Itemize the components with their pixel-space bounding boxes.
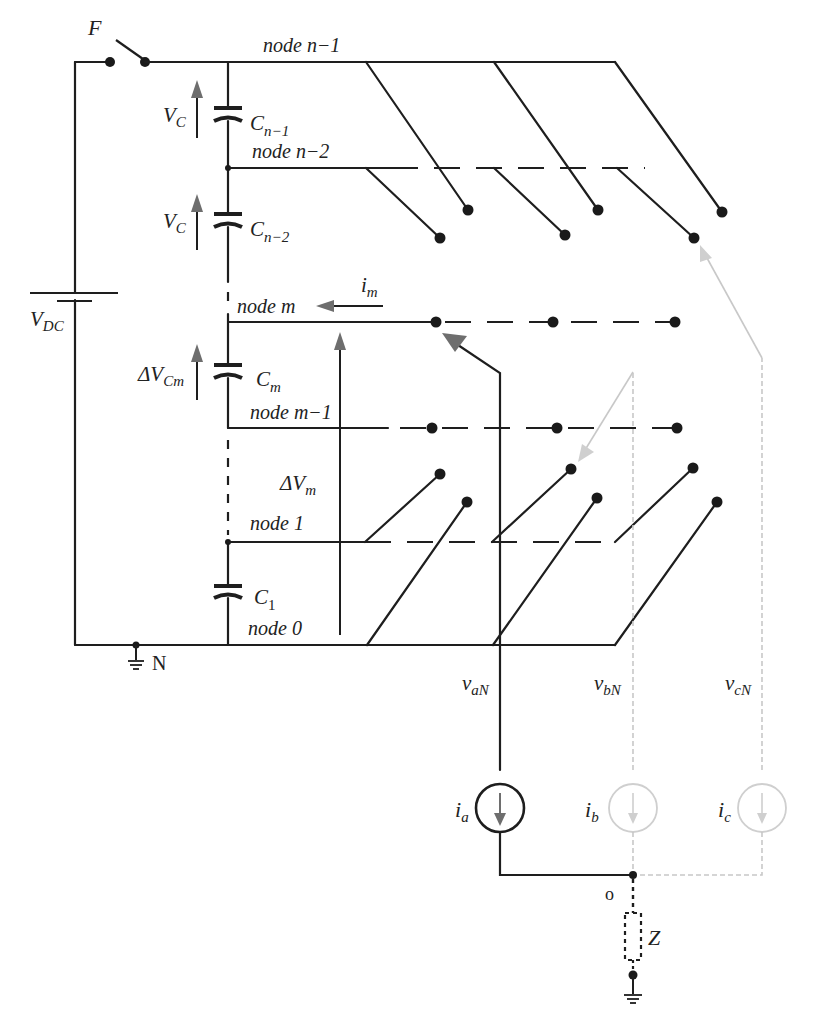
phase-current-ic-label: ic: [718, 797, 731, 825]
svg-text:vcN: vcN: [725, 671, 752, 698]
phase-current-ia-label: ia: [455, 797, 469, 825]
capacitor-cn-1-label: Cn−1: [250, 111, 289, 139]
capacitor-cm-label: Cm: [256, 367, 281, 395]
current-im-arrow: [316, 300, 383, 312]
ground-icon-o: [624, 995, 642, 1003]
node-n-2-label: node n−2: [252, 140, 329, 162]
delta-vm-label: ΔVm: [279, 471, 316, 498]
node-1-label: node 1: [250, 512, 304, 534]
svg-text:VDC: VDC: [30, 307, 65, 334]
svg-text:im: im: [361, 273, 378, 300]
svg-text:vaN: vaN: [462, 671, 490, 698]
ground-n-label: N: [152, 652, 166, 674]
svg-text:C1: C1: [254, 585, 276, 613]
impedance-z-box: [625, 913, 641, 960]
svg-text:ic: ic: [718, 797, 731, 825]
svg-text:VC: VC: [163, 209, 187, 236]
vdc-label: VDC: [30, 307, 65, 334]
svg-text:vbN: vbN: [594, 671, 622, 698]
voltage-vc-label-2: VC: [163, 209, 187, 236]
capacitor-column: [214, 62, 242, 645]
phase-c: [633, 245, 786, 875]
current-im-label: im: [361, 273, 378, 300]
capacitor-c1-label: C1: [254, 585, 276, 613]
svg-text:ΔVCm: ΔVCm: [137, 362, 184, 389]
capacitor-voltage-arrows: [191, 80, 346, 635]
voltage-delta-vcm-label: ΔVCm: [137, 362, 184, 389]
switches-top: [366, 62, 728, 244]
node-m-1-label: node m−1: [250, 401, 332, 423]
svg-text:VC: VC: [163, 103, 187, 130]
switch-f: [105, 40, 150, 67]
capacitor-cn-2-label: Cn−2: [250, 217, 290, 245]
phase-voltage-vbn-label: vbN: [594, 671, 622, 698]
phase-voltage-van-label: vaN: [462, 671, 490, 698]
svg-text:Cn−1: Cn−1: [250, 111, 289, 139]
phase-voltage-vcn-label: vcN: [725, 671, 752, 698]
node-o-label: o: [605, 884, 614, 904]
neutral-impedance: [625, 871, 641, 994]
phase-a: [442, 333, 633, 875]
switches-bottom: [365, 463, 723, 646]
circuit-svg: F node n−1 node n−2 node m node m−1 node…: [0, 0, 817, 1017]
svg-text:Cm: Cm: [256, 367, 281, 395]
svg-text:ib: ib: [585, 797, 599, 825]
svg-text:Cn−2: Cn−2: [250, 217, 290, 245]
impedance-z-label: Z: [648, 925, 661, 950]
svg-text:ia: ia: [455, 797, 469, 825]
voltage-vc-label-1: VC: [163, 103, 187, 130]
node-0-label: node 0: [248, 617, 302, 639]
switch-f-label: F: [87, 15, 102, 40]
node-m-label: node m: [237, 295, 295, 317]
phase-current-ib-label: ib: [585, 797, 599, 825]
node-n-1-label: node n−1: [263, 34, 340, 56]
svg-text:ΔVm: ΔVm: [279, 471, 316, 498]
circuit-diagram: F node n−1 node n−2 node m node m−1 node…: [0, 0, 817, 1017]
